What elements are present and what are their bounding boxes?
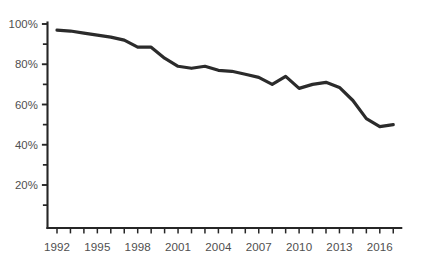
x-axis-tick-labels: 199219951998200120042007201020132016 bbox=[44, 240, 393, 253]
x-tick-label: 1995 bbox=[84, 240, 110, 253]
line-chart: 100%80%60%40%20% 19921995199820012004200… bbox=[0, 0, 425, 265]
x-tick-label: 1998 bbox=[125, 240, 151, 253]
y-tick-label: 40% bbox=[15, 139, 38, 151]
x-axis bbox=[48, 228, 402, 233]
x-tick-label: 2013 bbox=[326, 240, 352, 253]
y-tick-label: 80% bbox=[15, 58, 38, 70]
chart-plot-area: 100%80%60%40%20% 19921995199820012004200… bbox=[0, 0, 425, 265]
y-axis-tick-labels: 100%80%60%40%20% bbox=[8, 18, 38, 191]
x-tick-label: 1992 bbox=[44, 240, 70, 253]
x-tick-label: 2001 bbox=[165, 240, 191, 253]
y-tick-label: 100% bbox=[8, 18, 38, 30]
data-series-group bbox=[57, 30, 393, 127]
x-tick-label: 2016 bbox=[367, 240, 393, 253]
y-tick-label: 20% bbox=[15, 179, 38, 191]
x-tick-label: 2007 bbox=[246, 240, 272, 253]
data-line-percentage bbox=[57, 30, 393, 127]
x-tick-label: 2010 bbox=[286, 240, 312, 253]
y-tick-label: 60% bbox=[15, 99, 38, 111]
x-tick-label: 2004 bbox=[205, 240, 232, 253]
y-axis bbox=[42, 23, 48, 229]
